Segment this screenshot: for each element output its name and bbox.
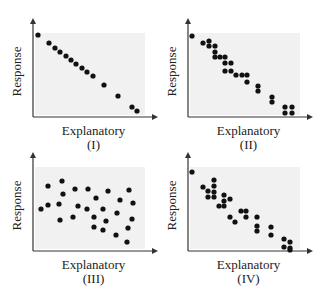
- x-axis-label: Explanatory: [62, 123, 126, 138]
- x-axis-label: Explanatory: [217, 123, 281, 138]
- data-point: [60, 191, 65, 196]
- y-axis-arrow-icon: [185, 152, 191, 158]
- data-point: [212, 43, 217, 48]
- data-point: [281, 236, 286, 241]
- data-point: [56, 201, 61, 206]
- data-point: [281, 244, 286, 249]
- data-point: [205, 194, 210, 199]
- data-point: [129, 216, 134, 221]
- data-point: [222, 68, 227, 73]
- data-point: [238, 208, 243, 213]
- data-point: [212, 54, 217, 59]
- data-point: [282, 104, 287, 109]
- data-point: [57, 217, 62, 222]
- data-point: [91, 214, 96, 219]
- data-point: [254, 214, 259, 219]
- y-axis-label: Response: [9, 180, 24, 230]
- data-point: [289, 110, 294, 115]
- data-point: [227, 214, 232, 219]
- y-axis-label: Response: [164, 180, 179, 230]
- data-point: [217, 54, 222, 59]
- data-point: [282, 110, 287, 115]
- data-point: [115, 93, 120, 98]
- data-point: [45, 202, 50, 207]
- data-point: [243, 208, 248, 213]
- data-point: [91, 224, 96, 229]
- data-point: [200, 184, 205, 189]
- x-axis-arrow-icon: [152, 248, 158, 254]
- data-point: [100, 206, 105, 211]
- data-point: [79, 65, 84, 70]
- y-axis-arrow-icon: [185, 18, 191, 24]
- y-axis-label: Response: [164, 46, 179, 96]
- data-point: [90, 73, 95, 78]
- x-axis-arrow-icon: [152, 114, 158, 120]
- data-point: [85, 186, 90, 191]
- plot-area: [35, 33, 145, 115]
- data-point: [125, 225, 130, 230]
- data-point: [93, 195, 98, 200]
- data-point: [59, 178, 64, 183]
- plot-area: [35, 167, 145, 249]
- data-point: [221, 198, 226, 203]
- scatter-plot-grid: Explanatory(I)Response Explanatory(II)Re…: [0, 0, 330, 288]
- data-point: [221, 203, 226, 208]
- data-point: [232, 219, 237, 224]
- data-point: [255, 88, 260, 93]
- data-point: [211, 177, 216, 182]
- data-point: [124, 239, 129, 244]
- data-point: [244, 79, 249, 84]
- data-point: [114, 210, 119, 215]
- panel-caption: (II): [240, 137, 257, 152]
- data-point: [84, 206, 89, 211]
- data-point: [75, 203, 80, 208]
- data-point: [206, 43, 211, 48]
- data-point: [130, 200, 135, 205]
- data-point: [189, 33, 194, 38]
- data-point: [46, 40, 51, 45]
- data-point: [211, 183, 216, 188]
- data-point: [129, 104, 134, 109]
- data-point: [100, 227, 105, 232]
- data-point: [189, 169, 194, 174]
- data-point: [45, 183, 50, 188]
- panel-caption: (IV): [237, 271, 259, 286]
- y-axis-arrow-icon: [30, 152, 36, 158]
- data-point: [222, 54, 227, 59]
- panel-4: Explanatory(IV)Response: [164, 152, 313, 286]
- panel-3: Explanatory(III)Response: [9, 152, 158, 286]
- data-point: [222, 60, 227, 65]
- data-point: [287, 239, 292, 244]
- data-point: [227, 196, 232, 201]
- data-point: [63, 53, 68, 58]
- data-point: [268, 232, 273, 237]
- data-point: [113, 232, 118, 237]
- data-point: [126, 187, 131, 192]
- data-point: [269, 99, 274, 104]
- data-point: [268, 224, 273, 229]
- x-axis-arrow-icon: [307, 248, 313, 254]
- data-point: [233, 72, 238, 77]
- data-point: [289, 104, 294, 109]
- data-point: [52, 45, 57, 50]
- data-point: [216, 203, 221, 208]
- data-point: [211, 194, 216, 199]
- data-point: [134, 108, 139, 113]
- data-point: [200, 40, 205, 45]
- data-point: [57, 49, 62, 54]
- data-point: [221, 192, 226, 197]
- x-axis-label: Explanatory: [62, 257, 126, 272]
- x-axis-arrow-icon: [307, 114, 313, 120]
- data-point: [84, 69, 89, 74]
- data-point: [254, 223, 259, 228]
- data-point: [70, 214, 75, 219]
- data-point: [269, 94, 274, 99]
- data-point: [103, 218, 108, 223]
- data-point: [38, 206, 43, 211]
- data-point: [211, 189, 216, 194]
- data-point: [244, 72, 249, 77]
- data-point: [228, 68, 233, 73]
- data-point: [254, 228, 259, 233]
- y-axis-label: Response: [9, 46, 24, 96]
- panel-2: Explanatory(II)Response: [164, 18, 313, 152]
